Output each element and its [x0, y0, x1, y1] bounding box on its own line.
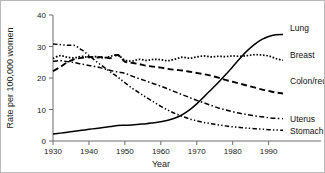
- y-tick-label: 0: [42, 137, 47, 146]
- series-label-stomach: Stomach: [290, 126, 324, 136]
- y-axis-title: Rate per 100,000 women: [5, 27, 15, 128]
- data-series-group: [53, 35, 283, 135]
- x-axis-title: Year: [152, 159, 170, 169]
- series-label-lung: Lung: [290, 23, 309, 33]
- y-axis-ticks: [49, 15, 53, 141]
- x-axis: 1930194019501960197019801990: [44, 141, 321, 156]
- x-tick-label: 1930: [44, 147, 62, 156]
- y-tick-label: 10: [37, 106, 46, 115]
- chart-canvas: 010203040 1930194019501960197019801990 R…: [1, 1, 324, 172]
- y-tick-label: 30: [37, 43, 46, 52]
- series-label-group: LungBreastColon/rectumUterusStomach: [290, 23, 324, 136]
- x-tick-label: 1950: [116, 147, 134, 156]
- x-axis-tick-labels: 1930194019501960197019801990: [44, 147, 278, 156]
- series-line-colon-rectum: [53, 55, 283, 93]
- x-axis-ticks: [53, 141, 269, 145]
- y-tick-label: 40: [37, 11, 46, 20]
- x-tick-label: 1980: [224, 147, 242, 156]
- cancer-mortality-chart-figure: 010203040 1930194019501960197019801990 R…: [0, 0, 325, 173]
- series-line-lung: [53, 35, 283, 135]
- x-tick-label: 1960: [152, 147, 170, 156]
- series-label-breast: Breast: [290, 50, 315, 60]
- series-label-uterus: Uterus: [290, 114, 315, 124]
- series-label-colon-rectum: Colon/rectum: [290, 76, 324, 86]
- x-tick-label: 1940: [80, 147, 98, 156]
- y-axis: 010203040: [37, 11, 53, 146]
- x-tick-label: 1990: [260, 147, 278, 156]
- x-tick-label: 1970: [188, 147, 206, 156]
- y-axis-tick-labels: 010203040: [37, 11, 46, 146]
- y-tick-label: 20: [37, 74, 46, 83]
